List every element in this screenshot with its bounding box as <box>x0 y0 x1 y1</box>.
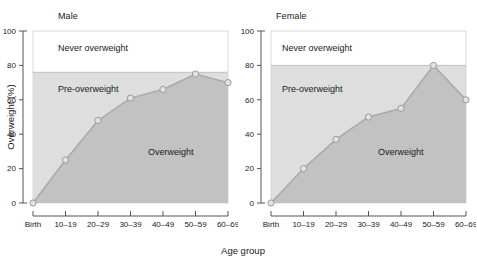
y-tick-label: 80 <box>7 61 16 70</box>
data-point-marker <box>430 62 436 68</box>
band-label-pre-overweight: Pre-overweight <box>282 84 343 94</box>
y-tick-label: 40 <box>7 130 16 139</box>
band-label-overweight: Overweight <box>148 147 194 157</box>
x-tick-label: Birth <box>263 220 279 229</box>
x-tick-label: 10–19 <box>54 220 77 229</box>
data-point-marker <box>463 97 469 103</box>
data-point-marker <box>225 80 231 86</box>
data-point-marker <box>192 71 198 77</box>
x-tick-label: 30–39 <box>357 220 380 229</box>
chart-male: 020406080100Birth10–1920–2930–3940–4950–… <box>0 0 238 264</box>
x-tick-label: 40–49 <box>152 220 175 229</box>
y-axis <box>261 31 265 203</box>
y-tick-label: 20 <box>7 164 16 173</box>
data-point-marker <box>300 166 306 172</box>
x-tick-label: 60–69 <box>217 220 238 229</box>
data-point-marker <box>95 117 101 123</box>
y-tick-label: 80 <box>245 61 254 70</box>
x-tick-label: 40–49 <box>390 220 413 229</box>
data-point-marker <box>160 86 166 92</box>
band-label-pre-overweight: Pre-overweight <box>58 84 119 94</box>
x-tick-label: 60–69 <box>455 220 476 229</box>
y-tick-label: 0 <box>250 199 255 208</box>
x-tick-label: 50–59 <box>422 220 445 229</box>
figure-root: Male 020406080100Birth10–1920–2930–3940–… <box>0 0 477 264</box>
band-label-overweight: Overweight <box>378 147 424 157</box>
data-point-marker <box>333 136 339 142</box>
y-tick-label: 60 <box>7 96 16 105</box>
y-axis <box>23 31 27 203</box>
x-tick-label: Birth <box>25 220 41 229</box>
y-tick-label: 60 <box>245 96 254 105</box>
panel-female: Female 020406080100Birth10–1920–2930–394… <box>238 0 476 264</box>
x-tick-label: 10–19 <box>292 220 315 229</box>
chart-female: 020406080100Birth10–1920–2930–3940–4950–… <box>238 0 476 264</box>
x-tick-label: 30–39 <box>119 220 142 229</box>
band-label-never-overweight: Never overweight <box>282 43 353 53</box>
y-tick-label: 100 <box>241 27 255 36</box>
y-tick-label: 20 <box>245 164 254 173</box>
x-tick-label: 50–59 <box>184 220 207 229</box>
data-point-marker <box>62 157 68 163</box>
data-point-marker <box>268 200 274 206</box>
data-point-marker <box>30 200 36 206</box>
band-label-never-overweight: Never overweight <box>58 43 129 53</box>
data-point-marker <box>365 114 371 120</box>
data-point-marker <box>127 95 133 101</box>
y-tick-label: 0 <box>12 199 17 208</box>
x-tick-label: 20–29 <box>325 220 348 229</box>
x-tick-label: 20–29 <box>87 220 110 229</box>
y-tick-label: 40 <box>245 130 254 139</box>
data-point-marker <box>398 105 404 111</box>
panel-male: Male 020406080100Birth10–1920–2930–3940–… <box>0 0 238 264</box>
y-tick-label: 100 <box>3 27 17 36</box>
